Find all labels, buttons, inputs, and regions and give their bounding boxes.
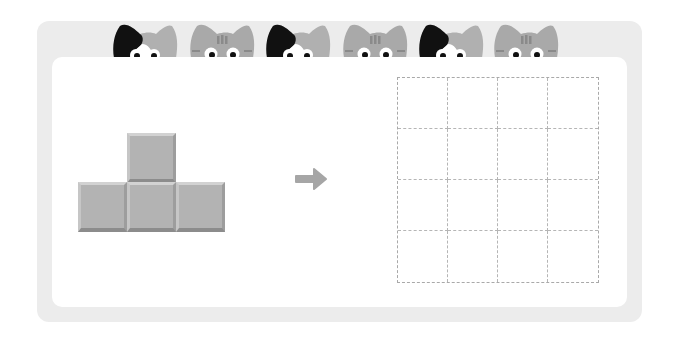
tabby-cat-icon — [491, 22, 561, 58]
grid-cell[interactable] — [498, 180, 548, 231]
grid-cell[interactable] — [548, 231, 598, 282]
grid-cell[interactable] — [448, 180, 498, 231]
target-grid — [397, 77, 599, 283]
right-arrow-icon — [294, 166, 328, 192]
grid-cell[interactable] — [498, 78, 548, 129]
tabby-cat-icon — [187, 22, 257, 58]
tabby-cat-icon — [340, 22, 410, 58]
grid-cell[interactable] — [448, 129, 498, 180]
calico-cat-icon — [263, 22, 333, 58]
grid-cell[interactable] — [498, 231, 548, 282]
shape-block — [127, 182, 176, 232]
grid-cell[interactable] — [398, 78, 448, 129]
grid-cell[interactable] — [398, 231, 448, 282]
grid-cell[interactable] — [398, 180, 448, 231]
calico-cat-icon — [416, 22, 486, 58]
shape-block — [127, 133, 176, 183]
grid-cell[interactable] — [548, 180, 598, 231]
calico-cat-icon — [110, 22, 180, 58]
grid-cell[interactable] — [448, 78, 498, 129]
grid-cell[interactable] — [398, 129, 448, 180]
grid-cell[interactable] — [548, 78, 598, 129]
shape-block — [176, 182, 225, 232]
grid-cell[interactable] — [448, 231, 498, 282]
grid-cell[interactable] — [548, 129, 598, 180]
grid-cell[interactable] — [498, 129, 548, 180]
shape-block — [78, 182, 127, 232]
